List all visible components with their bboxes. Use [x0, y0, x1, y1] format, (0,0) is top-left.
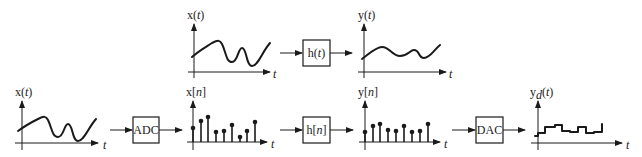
stems: [363, 122, 431, 142]
top-output-plot: y(t) t: [358, 8, 453, 81]
bottom-input-label: x(t): [15, 85, 32, 99]
input-waveform: [192, 41, 270, 66]
time-axis-label: t: [103, 138, 107, 152]
time-axis-label: t: [444, 137, 448, 151]
staircase-waveform: [535, 124, 602, 136]
reconstructed-output-plot: yd(t) t: [530, 85, 630, 152]
digital-system-box: h[n]: [303, 117, 330, 143]
adc-box: ADC: [133, 117, 159, 143]
stems: [191, 115, 258, 142]
sampled-input-label: x[n]: [186, 85, 206, 99]
reconstructed-output-label: yd(t): [530, 85, 553, 102]
time-axis-label: t: [449, 67, 453, 81]
analog-system-box: h(t): [303, 40, 330, 66]
sampled-input-plot: x[n] t: [186, 85, 275, 151]
top-input-label: x(t): [187, 8, 204, 22]
top-output-label: y(t): [358, 8, 375, 22]
top-input-plot: x(t) t: [187, 8, 277, 81]
time-axis-label: t: [273, 67, 277, 81]
dac-box: DAC: [476, 117, 503, 143]
input-waveform: [18, 117, 96, 141]
time-axis-label: t: [271, 137, 275, 151]
signal-processing-diagram: x(t) t h(t) y(t) t x(t) t ADC x[n]: [0, 0, 642, 157]
digital-system-label: h[n]: [307, 123, 327, 137]
analog-system-label: h(t): [308, 46, 325, 60]
sampled-output-label: y[n]: [358, 85, 378, 99]
adc-label: ADC: [133, 123, 158, 137]
bottom-input-plot: x(t) t: [15, 85, 107, 152]
output-waveform: [362, 45, 440, 59]
dac-label: DAC: [477, 123, 502, 137]
time-axis-label: t: [626, 138, 630, 152]
sampled-output-plot: y[n] t: [358, 85, 448, 151]
